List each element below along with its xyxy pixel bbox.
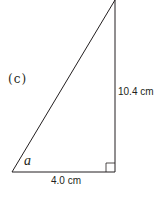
hypotenuse (12, 0, 115, 172)
vertical-side-length-label: 10.4 cm (118, 87, 154, 97)
base-side-length-label: 4.0 cm (51, 176, 81, 186)
part-label: (c) (8, 73, 27, 85)
right-angle-marker (106, 163, 115, 172)
angle-label: a (24, 154, 31, 168)
